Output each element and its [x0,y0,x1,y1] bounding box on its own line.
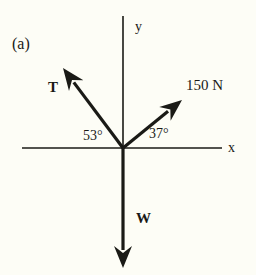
tension-arrowhead [63,68,83,91]
x-axis-label: x [228,141,235,155]
applied-force-vector-label: 150 N [186,78,223,93]
vector-diagram-canvas [0,0,256,275]
angle-label-37: 37° [149,127,169,141]
tension-vector-label: T [48,80,58,95]
angle-label-53: 53° [83,129,103,143]
weight-vector-label: W [136,211,151,226]
force-vector-diagram: (a) y x 53° 37° T 150 N W [0,0,256,275]
panel-label: (a) [12,36,30,52]
vector-weight [114,148,132,268]
y-axis-label: y [135,20,142,34]
